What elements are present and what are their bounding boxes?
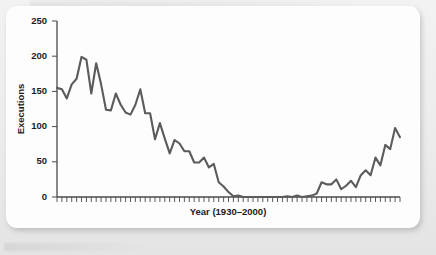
y-axis-title: Executions	[15, 84, 26, 135]
y-tick-label: 200	[31, 50, 47, 61]
y-axis-tick-marks	[52, 21, 57, 197]
y-tick-label: 150	[31, 85, 47, 96]
x-axis-title: Year (1930–2000)	[190, 206, 267, 217]
y-tick-label: 100	[31, 120, 47, 131]
y-tick-label: 250	[31, 15, 47, 26]
executions-line-chart: 050100150200250 Executions Year (1930–20…	[0, 0, 436, 255]
y-axis-tick-labels: 050100150200250	[31, 15, 47, 202]
y-tick-label: 50	[36, 155, 47, 166]
x-axis-tick-marks	[57, 197, 400, 202]
executions-series-line	[57, 57, 400, 197]
y-tick-label: 0	[42, 191, 47, 202]
chart-svg: 050100150200250 Executions Year (1930–20…	[0, 0, 436, 255]
